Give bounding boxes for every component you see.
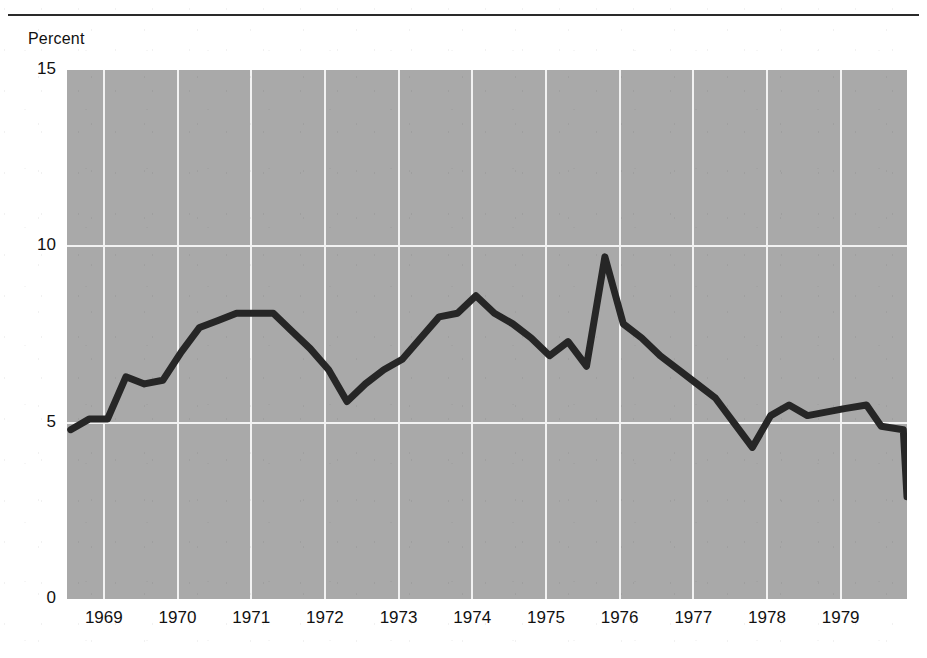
y-axis-tick-label-5: 5 xyxy=(8,412,56,432)
x-axis-tick-label-1970: 1970 xyxy=(138,608,218,628)
x-axis-tick-label-1969: 1969 xyxy=(64,608,144,628)
x-axis-tick-label-1976: 1976 xyxy=(580,608,660,628)
x-axis-tick-label-1979: 1979 xyxy=(801,608,881,628)
x-axis-tick-label-1977: 1977 xyxy=(653,608,733,628)
top-rule-divider xyxy=(8,14,919,16)
series-line-percent xyxy=(71,257,907,497)
data-line-svg xyxy=(67,70,907,599)
y-axis-unit-label: Percent xyxy=(28,30,85,48)
x-axis-tick-label-1971: 1971 xyxy=(211,608,291,628)
x-axis-tick-label-1974: 1974 xyxy=(432,608,512,628)
y-axis-tick-label-10: 10 xyxy=(8,235,56,255)
plot-area xyxy=(67,70,907,599)
y-axis-tick-label-0: 0 xyxy=(8,588,56,608)
x-axis-tick-label-1975: 1975 xyxy=(506,608,586,628)
x-axis-tick-label-1978: 1978 xyxy=(727,608,807,628)
x-axis-tick-label-1972: 1972 xyxy=(285,608,365,628)
x-axis-tick-label-1973: 1973 xyxy=(359,608,439,628)
chart-figure: Percent 051015 1969197019711972197319741… xyxy=(0,0,927,658)
y-axis-tick-label-15: 15 xyxy=(8,59,56,79)
